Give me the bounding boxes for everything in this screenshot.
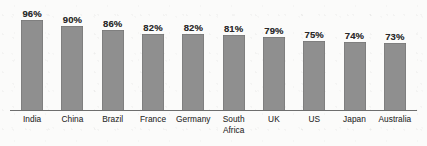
bar-slot[interactable]: 79% [254,4,294,111]
category-label: Japan [334,114,374,135]
bar-slot[interactable]: 90% [52,4,92,111]
bar[interactable] [384,43,406,111]
bar-value-label: 73% [385,31,404,42]
bar-value-label: 96% [22,8,41,19]
bar[interactable] [303,41,325,111]
bar-series: 96% 90% 86% 82% 82% 81% [12,4,415,111]
bar[interactable] [263,37,285,111]
bar-slot[interactable]: 96% [12,4,52,111]
bar-slot[interactable]: 82% [173,4,213,111]
category-label: India [12,114,52,135]
bar[interactable] [182,34,204,111]
category-label: Australia [375,114,415,135]
bar-value-label: 82% [143,22,162,33]
category-label: US [294,114,334,135]
category-label: SouthAfrica [213,114,253,135]
bar-value-label: 82% [184,22,203,33]
x-axis-labels: India China Brazil France Germany SouthA… [12,114,415,135]
bar-slot[interactable]: 86% [93,4,133,111]
bar-slot[interactable]: 81% [213,4,253,111]
bar-value-label: 75% [305,29,324,40]
category-label: Germany [173,114,213,135]
bar-slot[interactable]: 75% [294,4,334,111]
bar-value-label: 86% [103,18,122,29]
category-label: UK [254,114,294,135]
plot-area: 96% 90% 86% 82% 82% 81% [12,4,415,111]
bar-value-label: 74% [345,30,364,41]
bar[interactable] [102,30,124,111]
bar[interactable] [142,34,164,111]
bar-slot[interactable]: 73% [375,4,415,111]
bar-chart: 96% 90% 86% 82% 82% 81% [0,0,427,146]
category-label: France [133,114,173,135]
category-label: Brazil [93,114,133,135]
x-axis-line [10,110,417,111]
category-label: China [52,114,92,135]
bar-slot[interactable]: 74% [334,4,374,111]
bar-value-label: 81% [224,23,243,34]
bar-slot[interactable]: 82% [133,4,173,111]
bar[interactable] [21,20,43,111]
bar[interactable] [223,35,245,111]
bar[interactable] [61,26,83,111]
bar-value-label: 90% [63,14,82,25]
bar[interactable] [344,42,366,111]
bar-value-label: 79% [264,25,283,36]
